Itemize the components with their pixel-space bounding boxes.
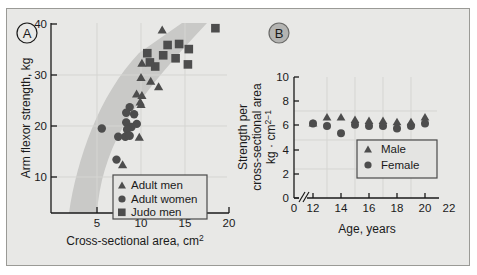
- figure-container: 40 30 20 10 5 10 15 20 Arm flexor streng…: [6, 8, 470, 266]
- panel-b-ytick-0: 0: [283, 192, 289, 204]
- panel-a-xtick-20: 20: [223, 217, 236, 229]
- panel-b-label: B: [269, 23, 289, 43]
- panel-b-gridlines: [294, 77, 437, 198]
- legend-square-icon: [118, 209, 126, 217]
- panel-a: 40 30 20 10 5 10 15 20 Arm flexor streng…: [7, 9, 247, 267]
- panel-a-xtick-5: 5: [94, 217, 100, 229]
- panel-b-ytick-6: 6: [283, 119, 289, 131]
- panel-a-legend-label-0: Adult men: [131, 179, 183, 191]
- panel-b-axis-lines: [294, 77, 439, 198]
- panel-b-legend: Male Female: [357, 140, 437, 178]
- panel-b-xtick-18: 18: [391, 202, 404, 214]
- panel-b-legend-label-1: Female: [381, 159, 419, 171]
- svg-text:B: B: [275, 26, 284, 41]
- panel-a-legend-label-1: Adult women: [131, 193, 197, 205]
- panel-b-xtick-0: 0: [291, 202, 297, 214]
- panel-a-label: A: [17, 23, 37, 43]
- legend-circle-icon: [118, 195, 125, 202]
- svg-text:A: A: [23, 26, 32, 41]
- panel-a-legend-label-2: Judo men: [131, 206, 182, 218]
- panel-b-ytick-10: 10: [276, 71, 289, 83]
- panel-a-y-axis-label: Arm flexor strength, kg: [19, 58, 33, 179]
- panel-b-xtick-16: 16: [363, 202, 376, 214]
- panel-b-y-axis-label-line2: cross-sectional area: [250, 83, 264, 191]
- panel-b-ytick-4: 4: [283, 144, 290, 156]
- panel-b-xtick-22: 22: [443, 202, 456, 214]
- panel-b-ytick-8: 8: [283, 95, 289, 107]
- panel-b-xtick-12: 12: [307, 202, 320, 214]
- panel-b-legend-label-0: Male: [381, 143, 406, 155]
- panel-b-y-axis-label-line1: Strength per: [236, 104, 250, 170]
- legend-circle-icon: [364, 161, 371, 168]
- panel-a-ytick-10: 10: [34, 171, 47, 183]
- panel-b-axis-ticks: [294, 77, 425, 198]
- panel-b-y-axis-label-line3: kg · cm2−1: [263, 110, 278, 164]
- panel-a-legend: Adult men Adult women Judo men: [113, 175, 207, 219]
- panel-b-xtick-14: 14: [335, 202, 348, 214]
- panel-b-ytick-2: 2: [283, 168, 289, 180]
- panel-b-axis-break-icon: [299, 192, 309, 202]
- panel-a-ytick-20: 20: [34, 120, 47, 132]
- panel-a-x-axis-label: Cross-sectional area, cm2: [66, 233, 204, 248]
- panel-a-ytick-30: 30: [34, 69, 47, 81]
- panel-b-x-axis-label: Age, years: [338, 222, 395, 236]
- panel-b: 10 8 6 4 2 0 0 12 14 16 18 20 22 Strengt…: [237, 9, 471, 267]
- panel-b-xtick-20: 20: [419, 202, 432, 214]
